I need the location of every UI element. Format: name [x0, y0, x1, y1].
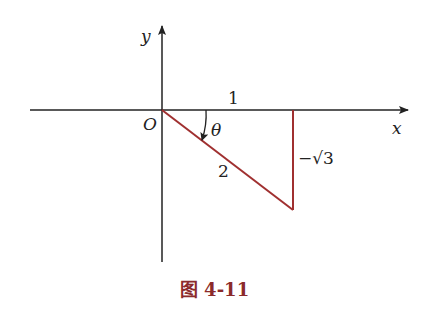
angle-arrow: [202, 110, 206, 140]
figure-caption: 图 4-11: [0, 275, 429, 301]
hypotenuse: [162, 110, 293, 210]
adjacent-label: 1: [228, 90, 239, 107]
origin-label: O: [143, 116, 157, 133]
y-axis-label: y: [141, 28, 151, 45]
x-axis-label: x: [392, 120, 402, 137]
opposite-label: −√3: [298, 150, 334, 167]
angle-label: θ: [211, 122, 221, 139]
hypotenuse-label: 2: [218, 163, 229, 180]
diagram-canvas: [0, 0, 429, 310]
